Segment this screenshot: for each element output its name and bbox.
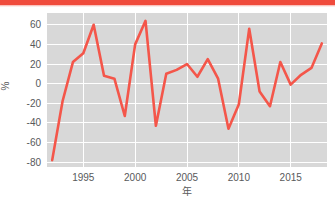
y-tick-label: -40 <box>27 117 42 128</box>
chart-canvas: 6040200-20-40-60-80 19952000200520102015… <box>0 0 335 203</box>
x-axis-tick-labels: 19952000200520102015 <box>72 172 302 183</box>
y-tick-label: 60 <box>30 19 42 30</box>
x-tick-label: 1995 <box>72 172 95 183</box>
line-chart: 6040200-20-40-60-80 19952000200520102015… <box>0 0 335 203</box>
y-axis-label: % <box>0 81 11 90</box>
y-tick-label: 20 <box>30 59 42 70</box>
y-tick-label: -20 <box>27 98 42 109</box>
x-axis-label: 年 <box>182 185 192 197</box>
x-tick-label: 2005 <box>176 172 199 183</box>
x-tick-label: 2010 <box>228 172 251 183</box>
x-tick-label: 2000 <box>124 172 147 183</box>
y-tick-label: 0 <box>35 78 41 89</box>
y-tick-label: 40 <box>30 39 42 50</box>
y-tick-label: -80 <box>27 157 42 168</box>
y-axis-tick-labels: 6040200-20-40-60-80 <box>27 19 42 167</box>
x-tick-label: 2015 <box>280 172 303 183</box>
y-tick-label: -60 <box>27 137 42 148</box>
